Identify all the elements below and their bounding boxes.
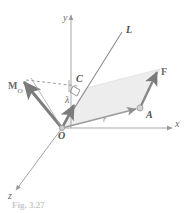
- label-moment-subscript: O: [17, 87, 22, 95]
- label-y-axis: y: [63, 13, 67, 23]
- label-force-F: F: [161, 67, 167, 77]
- label-point-C: C: [76, 74, 83, 84]
- label-line-L: L: [126, 25, 132, 35]
- label-point-A: A: [146, 110, 153, 120]
- moment-vector-MO: [24, 82, 62, 128]
- figure-caption: Fig. 3.27: [12, 200, 45, 210]
- label-origin-O: O: [58, 131, 65, 141]
- label-unit-vector-lambda: λ: [65, 95, 69, 105]
- moment-triangle-edge: [31, 78, 62, 128]
- label-moment-MO: MO: [8, 76, 23, 95]
- figure-vector-graphic: [0, 0, 185, 213]
- label-position-vector-r: r: [103, 116, 106, 124]
- z-axis-line: [16, 128, 62, 190]
- figure-container: y x z L O A C F λ r MO Fig. 3.27: [0, 0, 185, 213]
- point-A-dot: [137, 105, 143, 111]
- label-x-axis: x: [175, 119, 179, 129]
